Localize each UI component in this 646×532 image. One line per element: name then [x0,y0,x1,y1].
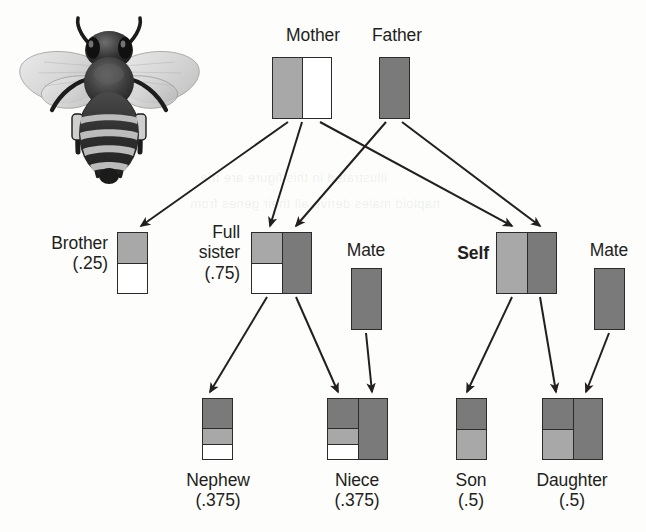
chromosome-column [252,233,282,293]
chromosome-segment-dark_gray [283,233,312,293]
arrow-mother-to-full-sister [270,122,302,226]
arrow-self-to-son [467,297,512,392]
bee-abdomen [79,92,139,184]
node-label-mother: Mother [286,25,340,45]
node-label-self: Self [329,243,489,263]
node-label-niece: Niece (.375) [334,470,379,511]
chromosome-column [595,269,624,329]
chromosome-segment-dark_gray [574,399,603,459]
node-label-son: Son (.5) [456,470,487,511]
chromosome-segment-dark_gray [595,269,624,329]
chromosome-column [573,399,603,459]
arrow-mate-right-to-daughter [586,333,609,392]
chromosome-block-father [379,57,410,119]
honeybee-illustration [14,6,204,206]
chromosome-segment-light_gray [497,233,527,293]
node-label-mate-right: Mate [590,240,629,260]
chromosome-block-mother [272,57,332,119]
arrow-mother-to-self [320,122,512,226]
chromosome-segment-dark_gray [543,399,573,429]
chromosome-column [352,269,381,329]
chromosome-column [273,58,302,118]
chromosome-block-daughter [542,398,603,460]
chromosome-segment-dark_gray [457,399,486,429]
chromosome-segment-light_gray [252,233,282,263]
chromosome-column [380,58,409,118]
chromosome-column [457,399,486,459]
chromosome-column [358,399,388,459]
chromosome-segment-dark_gray [380,58,409,118]
chromosome-segment-white [203,444,232,460]
chromosome-segment-dark_gray [328,399,358,428]
chromosome-block-mate-right [594,268,625,330]
chromosome-segment-dark_gray [203,399,232,428]
chromosome-segment-dark_gray [359,399,388,459]
chromosome-block-mate-left [351,268,382,330]
arrow-father-to-self [402,122,540,226]
chromosome-segment-dark_gray [528,233,557,293]
chromosome-column [527,233,557,293]
chromosome-column [497,233,527,293]
node-label-father: Father [372,25,422,45]
arrow-father-to-full-sister [296,122,386,226]
chromosome-segment-dark_gray [352,269,381,329]
arrow-full-sister-to-niece [296,297,338,392]
chromosome-block-son [456,398,487,460]
pedigree-figure: illustrated in this figure are thehaploi… [0,0,646,532]
chromosome-segment-light_gray [203,428,232,444]
chromosome-column [282,233,312,293]
arrow-full-sister-to-nephew [210,297,267,392]
chromosome-segment-light_gray [457,429,486,460]
chromosome-block-self [496,232,557,294]
chromosome-column [543,399,573,459]
chromosome-column [328,399,358,459]
arrow-self-to-daughter [540,297,556,392]
node-label-nephew: Nephew (.375) [186,470,250,511]
chromosome-segment-light_gray [273,58,302,118]
ghost-text: illustrated in this figure are the [200,170,387,185]
chromosome-segment-white [328,444,358,460]
chromosome-segment-white [303,58,331,118]
chromosome-segment-light_gray [328,428,358,444]
arrow-mate-left-to-niece [366,333,372,392]
honeybee-svg [14,6,204,206]
chromosome-column [302,58,331,118]
ghost-text: haploid males derive all their genes fro… [190,196,440,211]
chromosome-block-full-sister [251,232,312,294]
chromosome-column [203,399,232,459]
node-label-full-sister: Full sister (.75) [80,222,240,283]
chromosome-segment-light_gray [543,429,573,460]
chromosome-block-niece [327,398,388,460]
chromosome-segment-white [252,263,282,294]
chromosome-block-nephew [202,398,233,460]
node-label-daughter: Daughter (.5) [536,470,607,511]
